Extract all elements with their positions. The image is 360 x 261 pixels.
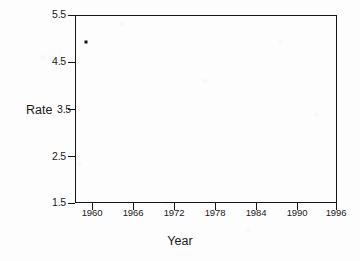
plot-area bbox=[75, 15, 337, 203]
x-tick-label: 1960 bbox=[72, 207, 112, 218]
x-tick-label: 1984 bbox=[236, 207, 276, 218]
y-tick-label: 1.5 bbox=[44, 197, 66, 208]
y-tick-label: 2.5 bbox=[44, 151, 66, 162]
data-point bbox=[84, 41, 87, 44]
y-axis-tick bbox=[68, 203, 75, 204]
x-tick-label: 1990 bbox=[277, 207, 317, 218]
x-tick-label: 1972 bbox=[154, 207, 194, 218]
y-axis-tick bbox=[68, 15, 75, 16]
y-axis-tick bbox=[68, 109, 75, 110]
x-axis-title: Year bbox=[0, 234, 360, 248]
y-tick-label: 5.5 bbox=[44, 9, 66, 20]
x-tick-label: 1966 bbox=[113, 207, 153, 218]
x-tick-label: 1996 bbox=[316, 207, 356, 218]
y-tick-label: 4.5 bbox=[44, 56, 66, 67]
y-axis-tick bbox=[68, 62, 75, 63]
y-axis-tick bbox=[68, 156, 75, 157]
x-tick-label: 1978 bbox=[195, 207, 235, 218]
chart-screenshot: Rate 5.5 4.5 3.5 2.5 1.5 1960 1966 1972 … bbox=[0, 0, 360, 261]
